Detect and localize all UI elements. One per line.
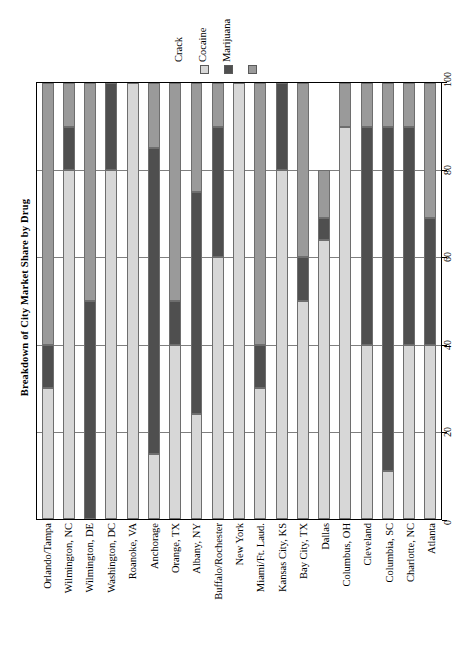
axis-tick-label: 40 (443, 324, 453, 350)
stacked-bar (148, 83, 160, 519)
category-slot: Wilmington, DE (79, 521, 100, 645)
chart-title: Breakdown of City Market Share by Drug (19, 188, 30, 408)
bar-segment-crack (318, 240, 330, 519)
bar-slot (228, 83, 249, 519)
bar-segment-cocaine (169, 301, 181, 345)
bar-segment-crack (212, 257, 224, 519)
stacked-bar (297, 83, 309, 519)
category-slot: Albany, NY (186, 521, 207, 645)
category-label: Wilmington, DE (84, 523, 95, 593)
category-axis: Orlando/TampaWilmington, NCWilmington, D… (36, 521, 442, 645)
bar-segment-cocaine (148, 148, 160, 453)
category-label: Wilmington, NC (63, 523, 74, 593)
bar-segment-crack (63, 170, 75, 519)
bar-segment-marijuana (148, 83, 160, 148)
category-label: Roanoke, VA (127, 523, 138, 579)
stacked-bar (212, 83, 224, 519)
category-label: Miami/Ft. Laud. (255, 523, 266, 592)
bar-slot (207, 83, 228, 519)
bar-slot (165, 83, 186, 519)
stacked-bar (339, 83, 351, 519)
stacked-bar (127, 83, 139, 519)
stacked-bar (424, 83, 436, 519)
bar-segment-crack (382, 471, 394, 519)
stacked-bar (63, 83, 75, 519)
bar-segment-crack (105, 170, 117, 519)
bar-segment-marijuana (382, 83, 394, 127)
stacked-bar (318, 83, 330, 519)
legend-swatch-icon (248, 65, 257, 74)
bar-segment-marijuana (403, 83, 415, 127)
category-slot: Orlando/Tampa (36, 521, 57, 645)
bar-slot (122, 83, 143, 519)
stacked-bar (361, 83, 373, 519)
category-slot: Columbus, OH (335, 521, 356, 645)
stacked-bar (84, 83, 96, 519)
bar-segment-crack (127, 83, 139, 519)
bar-segment-cocaine (297, 257, 309, 301)
plot-area (36, 82, 442, 520)
bar-slot (58, 83, 79, 519)
category-slot: Buffalo/Rochester (207, 521, 228, 645)
bar-segment-crack (297, 301, 309, 519)
bar-slot (186, 83, 207, 519)
category-label: Columbia, SC (383, 523, 394, 583)
bar-segment-marijuana (42, 83, 54, 345)
bar-segment-crack (169, 345, 181, 519)
chart-legend: CrackCocaineMarijuana (198, 12, 278, 74)
category-label: Cleveland (362, 523, 373, 566)
stacked-bar (276, 83, 288, 519)
value-axis: 020406080100 (442, 82, 471, 520)
category-label: New York (234, 523, 245, 566)
bar-segment-cocaine (191, 192, 203, 414)
bar-segment-crack (361, 345, 373, 519)
category-slot: Roanoke, VA (122, 521, 143, 645)
bar-segment-cocaine (105, 83, 117, 170)
bar-segment-crack (233, 83, 245, 519)
bar-segment-crack (276, 170, 288, 519)
category-slot: Miami/Ft. Laud. (250, 521, 271, 645)
bar-segment-crack (424, 345, 436, 519)
category-slot: Kansas City, KS (271, 521, 292, 645)
legend-label: Cocaine (197, 10, 208, 62)
bar-segment-marijuana (424, 83, 436, 218)
bar-segment-marijuana (169, 83, 181, 301)
category-slot: New York (228, 521, 249, 645)
bar-segment-cocaine (84, 301, 96, 519)
bar-segment-marijuana (254, 83, 266, 345)
stacked-bar (42, 83, 54, 519)
category-slot: Atlanta (421, 521, 442, 645)
category-slot: Dallas (314, 521, 335, 645)
bar-segment-cocaine (254, 345, 266, 389)
bar-slot (37, 83, 58, 519)
stacked-bar (191, 83, 203, 519)
stacked-bar (169, 83, 181, 519)
bar-slot (313, 83, 334, 519)
category-label: Orlando/Tampa (41, 523, 52, 589)
category-label: Bay City, TX (298, 523, 309, 579)
category-slot: Anchorage (143, 521, 164, 645)
axis-tick-label: 100 (443, 61, 453, 87)
bar-segment-marijuana (339, 83, 351, 127)
bar-segment-marijuana (297, 83, 309, 257)
category-slot: Wilmington, NC (57, 521, 78, 645)
bar-segment-cocaine (424, 218, 436, 344)
bar-segment-cocaine (403, 127, 415, 345)
bar-segment-crack (191, 414, 203, 519)
bar-slot (377, 83, 398, 519)
bar-group (37, 83, 441, 519)
category-label: Atlanta (426, 523, 437, 554)
category-label: Dallas (319, 523, 330, 550)
legend-swatch-icon (224, 65, 233, 74)
bar-segment-cocaine (318, 218, 330, 240)
bar-slot (143, 83, 164, 519)
stacked-bar (254, 83, 266, 519)
category-label: Buffalo/Rochester (212, 523, 223, 600)
chart-figure: CrackCocaineMarijuana Breakdown of City … (0, 0, 471, 649)
category-label: Albany, NY (191, 523, 202, 574)
category-slot: Columbia, SC (378, 521, 399, 645)
axis-tick-label: 20 (443, 411, 453, 437)
bar-slot (356, 83, 377, 519)
legend-label: Marijuana (221, 10, 232, 62)
bar-segment-marijuana (361, 83, 373, 127)
